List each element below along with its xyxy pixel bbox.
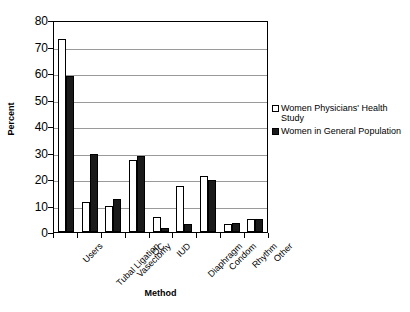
- y-axis-tick-mark: [48, 207, 53, 208]
- y-axis-tick-mark: [48, 154, 53, 155]
- bar: [184, 224, 192, 232]
- bar: [224, 224, 232, 232]
- bar-group: [101, 22, 125, 232]
- bar: [58, 39, 66, 232]
- bar: [82, 202, 90, 232]
- plot-area: [53, 21, 268, 233]
- bar-chart: Percent 01020304050607080 UsersTubal Lig…: [0, 0, 410, 312]
- y-axis-tick-mark: [48, 21, 53, 22]
- x-axis-tick-mark: [196, 233, 197, 238]
- y-axis-tick-label: 10: [20, 201, 48, 213]
- bar-group: [54, 22, 78, 232]
- y-axis-tick-mark: [48, 101, 53, 102]
- x-axis-tick-mark: [125, 233, 126, 238]
- bar: [176, 186, 184, 232]
- bar-group: [78, 22, 102, 232]
- x-axis-tick-mark: [53, 233, 54, 238]
- bar: [153, 217, 161, 232]
- x-axis-tick-label: IUD: [174, 241, 192, 259]
- y-axis-tick-mark: [48, 48, 53, 49]
- bar: [232, 223, 240, 232]
- bars-layer: [54, 22, 267, 232]
- x-axis-title: Method: [53, 288, 268, 298]
- y-axis-tick-label: 50: [20, 95, 48, 107]
- bar-group: [172, 22, 196, 232]
- legend-entry: Women Physicians' Health Study: [272, 103, 410, 123]
- bar: [247, 219, 255, 232]
- bar: [113, 199, 121, 232]
- bar: [129, 160, 137, 232]
- bar: [66, 76, 74, 232]
- y-axis-tick-mark: [48, 233, 53, 234]
- bar-group: [243, 22, 267, 232]
- bar-group: [149, 22, 173, 232]
- chart-legend: Women Physicians' Health StudyWomen in G…: [272, 103, 410, 139]
- y-axis-tick-label: 0: [20, 227, 48, 239]
- y-axis-tick-label: 20: [20, 174, 48, 186]
- y-axis-tick-mark: [48, 127, 53, 128]
- legend-swatch-icon: [272, 128, 279, 135]
- x-axis-tick-mark: [268, 233, 269, 238]
- x-axis-tick-mark: [172, 233, 173, 238]
- y-axis-tick-label: 80: [20, 15, 48, 27]
- legend-swatch-icon: [272, 105, 279, 112]
- y-axis-tick-label: 30: [20, 148, 48, 160]
- legend-label: Women in General Population: [281, 126, 401, 136]
- y-axis-tick-mark: [48, 180, 53, 181]
- x-axis-tick-mark: [244, 233, 245, 238]
- bar: [208, 180, 216, 232]
- y-axis-tick-mark: [48, 74, 53, 75]
- bar-group: [125, 22, 149, 232]
- x-axis-tick-mark: [220, 233, 221, 238]
- bar: [105, 206, 113, 233]
- bar: [90, 154, 98, 232]
- y-axis-tick-label: 70: [20, 42, 48, 54]
- x-axis-tick-mark: [149, 233, 150, 238]
- x-axis-tick-label: Users: [81, 241, 105, 265]
- bar: [137, 156, 145, 232]
- bar-group: [196, 22, 220, 232]
- y-axis-tick-label: 40: [20, 121, 48, 133]
- y-axis-title: Percent: [6, 89, 16, 149]
- legend-entry: Women in General Population: [272, 126, 410, 136]
- bar: [161, 228, 169, 232]
- bar: [200, 176, 208, 232]
- x-axis-tick-mark: [101, 233, 102, 238]
- legend-label: Women Physicians' Health Study: [281, 103, 410, 123]
- bar-group: [220, 22, 244, 232]
- bar: [255, 219, 263, 232]
- x-axis-tick-mark: [77, 233, 78, 238]
- y-axis-tick-labels: 01020304050607080: [20, 21, 48, 233]
- y-axis-tick-label: 60: [20, 68, 48, 80]
